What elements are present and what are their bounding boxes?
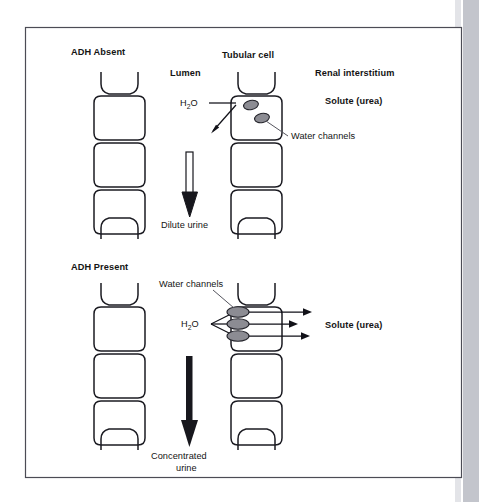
tubular-cell — [231, 354, 282, 398]
left-cell-column-absent — [94, 72, 145, 239]
figure-root: ADH Absent Lumen Tubular cell Renal inte… — [0, 0, 479, 502]
label-solute-urea-present: Solute (urea) — [325, 320, 382, 330]
label-lumen: Lumen — [170, 68, 201, 78]
tubule-cell — [94, 307, 145, 351]
page-edge-strip — [463, 0, 479, 502]
adh-water-reabsorption-diagram: ADH Absent Lumen Tubular cell Renal inte… — [0, 0, 479, 502]
panel-title-adh-present: ADH Present — [71, 262, 128, 272]
panel-title-adh-absent: ADH Absent — [71, 47, 125, 57]
water-channel-icon — [227, 331, 249, 341]
tubular-cell — [231, 143, 282, 187]
water-channel-icon — [227, 307, 249, 317]
left-cell-column-present — [94, 283, 145, 450]
tubule-cell — [94, 143, 145, 187]
tubule-cell — [94, 354, 145, 398]
label-solute-urea-absent: Solute (urea) — [325, 96, 382, 106]
label-concentrated-urine-line2: urine — [176, 463, 197, 473]
tubule-cell — [94, 96, 145, 140]
label-water-channels-absent: Water channels — [291, 131, 356, 141]
water-channel-icon — [227, 319, 249, 329]
label-water-channels-present: Water channels — [159, 279, 224, 289]
label-renal-interstitium: Renal interstitium — [315, 68, 394, 78]
label-concentrated-urine-line1: Concentrated — [151, 451, 207, 461]
right-cell-column-absent — [231, 72, 282, 239]
label-tubular-cell: Tubular cell — [222, 50, 274, 60]
label-dilute-urine: Dilute urine — [161, 220, 208, 230]
